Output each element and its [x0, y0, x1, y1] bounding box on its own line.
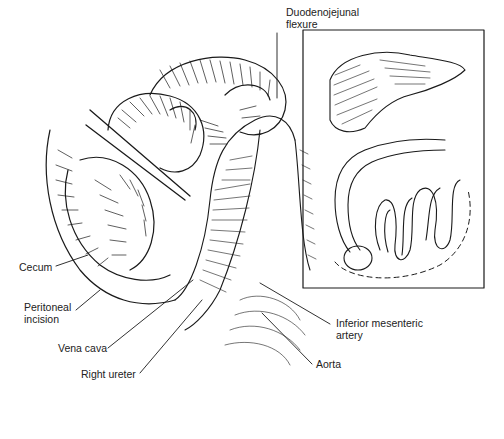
inset-dashed-line	[335, 190, 470, 278]
label-peritoneal-incision: Peritoneal incision	[24, 301, 71, 325]
label-aorta: Aorta	[316, 358, 341, 370]
retractor	[86, 110, 190, 200]
illustration-drawing	[0, 0, 504, 439]
inset-colon	[335, 139, 445, 270]
retroperitoneum	[175, 116, 316, 365]
inset-panel	[303, 30, 484, 288]
label-vena-cava: Vena cava	[58, 342, 107, 354]
cecum-colon	[46, 130, 175, 304]
inset-small-bowel	[375, 180, 460, 260]
label-right-ureter: Right ureter	[81, 368, 136, 380]
small-bowel-loops	[108, 57, 286, 172]
inset-liver	[330, 52, 465, 131]
label-duodenojejunal-flexure: Duodenojejunal flexure	[286, 6, 359, 30]
leader-lines	[56, 33, 330, 373]
label-cecum: Cecum	[19, 261, 52, 273]
label-inferior-mesenteric-artery: Inferior mesenteric artery	[336, 317, 423, 341]
anatomical-illustration: Duodenojejunal flexure Cecum Peritoneal …	[0, 0, 504, 439]
